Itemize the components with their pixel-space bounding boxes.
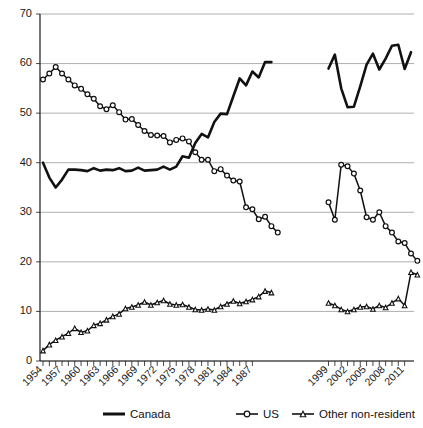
x-tick-label-1981: 1981: [191, 363, 216, 388]
series-canada-left: [43, 62, 271, 187]
marker-us-left-11: [110, 103, 115, 108]
marker-other-non-resident-left-8: [91, 323, 96, 328]
marker-us-right-9: [383, 224, 388, 229]
x-tick-label-1972: 1972: [134, 363, 159, 388]
marker-us-left-7: [85, 92, 90, 97]
marker-other-non-resident-left-36: [269, 290, 274, 295]
marker-other-non-resident-left-25: [199, 308, 204, 313]
marker-us-right-6: [364, 215, 369, 220]
marker-us-left-34: [256, 217, 261, 222]
marker-us-right-10: [390, 230, 395, 235]
marker-other-non-resident-left-17: [149, 303, 154, 308]
legend-circle-marker-icon: [244, 411, 250, 417]
marker-other-non-resident-left-14: [130, 305, 135, 310]
marker-us-left-33: [250, 207, 255, 212]
marker-us-right-11: [396, 239, 401, 244]
marker-us-right-1: [332, 217, 337, 222]
marker-other-non-resident-left-29: [225, 302, 230, 307]
marker-us-left-24: [193, 150, 198, 155]
marker-us-left-14: [129, 117, 134, 122]
marker-other-non-resident-left-35: [263, 289, 268, 294]
series-canada-right: [329, 45, 411, 107]
legend-item-other-non-resident[interactable]: Other non-resident: [292, 408, 416, 420]
marker-us-right-5: [358, 188, 363, 193]
y-tick-label-70: 70: [20, 7, 32, 19]
marker-other-non-resident-right-0: [326, 301, 331, 306]
marker-us-left-8: [91, 96, 96, 101]
y-tick-label-0: 0: [26, 354, 32, 366]
legend-triangle-marker-icon: [300, 411, 306, 417]
marker-other-non-resident-right-14: [415, 272, 420, 277]
line-canada-right: [329, 45, 411, 107]
marker-other-non-resident-left-33: [250, 297, 255, 302]
marker-us-left-32: [244, 205, 249, 210]
x-tick-label-1984: 1984: [210, 363, 235, 388]
line-us-right: [329, 165, 418, 261]
marker-us-left-28: [218, 167, 223, 172]
x-tick-label-1960: 1960: [57, 363, 82, 388]
marker-us-right-2: [339, 162, 344, 167]
marker-other-non-resident-left-18: [155, 300, 160, 305]
series-us-right: [326, 162, 420, 263]
y-tick-label-20: 20: [20, 255, 32, 267]
marker-us-left-3: [60, 71, 65, 76]
marker-us-right-12: [402, 241, 407, 246]
marker-us-right-13: [409, 251, 414, 256]
y-tick-label-50: 50: [20, 106, 32, 118]
marker-us-left-10: [104, 107, 109, 112]
marker-us-left-18: [155, 133, 160, 138]
marker-other-non-resident-left-22: [180, 302, 185, 307]
marker-other-non-resident-left-13: [123, 306, 128, 311]
marker-other-non-resident-left-19: [161, 298, 166, 303]
marker-us-left-35: [263, 214, 268, 219]
series-layer: [41, 45, 420, 353]
marker-us-right-14: [415, 258, 420, 263]
marker-us-left-25: [199, 157, 204, 162]
legend-item-us[interactable]: US: [236, 408, 279, 420]
y-tick-label-10: 10: [20, 304, 32, 316]
marker-other-non-resident-left-28: [218, 304, 223, 309]
x-tick-label-1975: 1975: [153, 363, 178, 388]
x-axis-tick-labels: 1954195719601963196619691972197519781981…: [19, 363, 406, 388]
y-tick-label-30: 30: [20, 205, 32, 217]
marker-other-non-resident-left-15: [136, 303, 141, 308]
marker-other-non-resident-left-21: [174, 303, 179, 308]
marker-us-left-29: [225, 173, 230, 178]
marker-other-non-resident-right-5: [358, 305, 363, 310]
x-tick-label-2011: 2011: [382, 363, 407, 388]
x-tick-label-1987: 1987: [229, 363, 254, 388]
series-other-non-resident-left: [41, 289, 274, 353]
legend-label-other-non-resident: Other non-resident: [319, 408, 416, 420]
legend-label-us: US: [263, 408, 279, 420]
marker-other-non-resident-right-13: [409, 270, 414, 275]
marker-us-left-12: [117, 110, 122, 115]
marker-other-non-resident-left-5: [72, 326, 77, 331]
marker-us-left-23: [187, 139, 192, 144]
x-tick-label-1966: 1966: [96, 363, 121, 388]
marker-us-left-30: [231, 178, 236, 183]
x-tick-label-1963: 1963: [77, 363, 102, 388]
marker-us-right-4: [351, 171, 356, 176]
marker-other-non-resident-right-1: [333, 303, 338, 308]
marker-other-non-resident-left-32: [244, 299, 249, 304]
x-tick-label-2008: 2008: [362, 363, 387, 388]
marker-other-non-resident-right-11: [396, 296, 401, 301]
marker-us-left-27: [212, 169, 217, 174]
legend-item-canada[interactable]: Canada: [103, 408, 171, 420]
marker-us-left-15: [136, 123, 141, 128]
marker-us-left-16: [142, 129, 147, 134]
marker-us-left-1: [47, 71, 52, 76]
x-tick-label-1978: 1978: [172, 363, 197, 388]
marker-other-non-resident-right-4: [352, 307, 357, 312]
x-tick-label-1957: 1957: [38, 363, 63, 388]
x-tick-label-2002: 2002: [324, 363, 349, 388]
marker-us-left-36: [269, 224, 274, 229]
marker-us-left-2: [53, 65, 58, 70]
marker-us-left-19: [161, 134, 166, 139]
chart-container: 010203040506070 195419571960196319661969…: [0, 0, 423, 428]
marker-us-left-6: [79, 86, 84, 91]
marker-us-left-17: [148, 133, 153, 138]
marker-other-non-resident-left-30: [231, 299, 236, 304]
marker-us-left-20: [167, 140, 172, 145]
series-other-non-resident-right: [326, 270, 419, 314]
